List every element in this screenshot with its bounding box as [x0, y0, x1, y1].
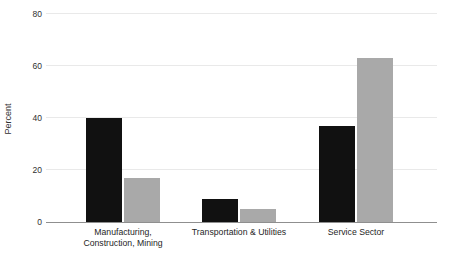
y-tick-label-60: 60: [0, 61, 42, 71]
bar-chart: Percent 020406080 Manufacturing,Construc…: [0, 0, 451, 264]
bar-gray-bars-category-2: [240, 209, 276, 222]
plot-area: [46, 14, 437, 222]
bar-gray-bars-category-1: [124, 178, 160, 222]
x-category-label-line: Service Sector: [271, 227, 441, 238]
y-tick-label-40: 40: [0, 113, 42, 123]
y-tick-label-80: 80: [0, 9, 42, 19]
y-tick-label-20: 20: [0, 165, 42, 175]
x-category-label-3: Service Sector: [271, 227, 441, 238]
bar-dark-bars-category-2: [202, 199, 238, 222]
gridline-80: [46, 13, 437, 14]
x-category-label-line: Construction, Mining: [38, 238, 208, 249]
bar-gray-bars-category-3: [357, 58, 393, 222]
bar-dark-bars-category-1: [86, 118, 122, 222]
bar-dark-bars-category-3: [319, 126, 355, 222]
y-tick-label-0: 0: [0, 217, 42, 227]
